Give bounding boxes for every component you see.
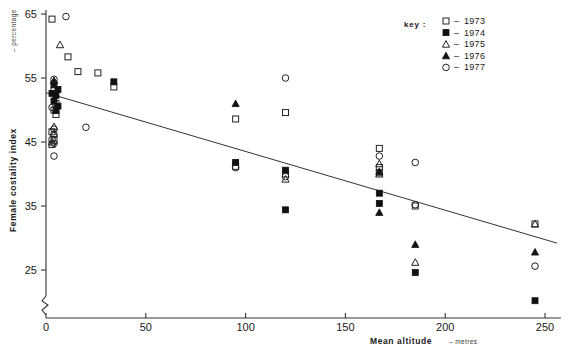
data-point <box>532 298 538 304</box>
scatter-chart: 2535455565050100150200250 Female costali… <box>0 0 577 358</box>
data-point <box>376 153 383 160</box>
legend-item-label: 1976 <box>464 51 485 61</box>
x-axis-unit: – metres <box>449 338 478 345</box>
axis-labels-layer: Female costality index– percentageMean a… <box>8 9 478 346</box>
legend-item-label: 1975 <box>464 39 485 49</box>
data-point <box>412 270 418 276</box>
trendline-layer <box>46 93 557 243</box>
data-point <box>412 259 419 266</box>
x-tick-label: 50 <box>140 321 152 333</box>
chart-canvas: 2535455565050100150200250 Female costali… <box>0 0 577 358</box>
data-point <box>56 41 63 48</box>
data-point <box>111 79 117 85</box>
data-point <box>283 110 289 116</box>
data-point <box>376 190 382 196</box>
legend-item-label: 1973 <box>464 16 485 26</box>
x-axis-title: Mean altitude <box>370 336 432 346</box>
data-point <box>532 263 539 270</box>
legend-dash: – <box>454 39 459 49</box>
data-point <box>95 70 101 76</box>
legend-dash: – <box>454 28 459 38</box>
data-point <box>233 116 239 122</box>
legend-item-1976: –1976 <box>442 51 485 61</box>
x-tick-label: 200 <box>436 321 454 333</box>
legend-item-1977: –1977 <box>443 62 486 72</box>
y-tick-label: 55 <box>25 72 37 84</box>
data-point <box>53 92 59 98</box>
data-point <box>531 248 538 255</box>
y-tick-label: 25 <box>25 264 37 276</box>
legend-marker-filled-square <box>443 30 449 36</box>
y-tick-label: 65 <box>25 8 37 20</box>
data-point <box>65 54 71 60</box>
x-tick-label: 150 <box>336 321 354 333</box>
legend-item-1975: –1975 <box>442 39 485 49</box>
legend-dash: – <box>454 16 459 26</box>
x-tick-label: 250 <box>536 321 554 333</box>
y-tick-label: 45 <box>25 136 37 148</box>
series-1975 <box>48 41 538 265</box>
legend-marker-open-square <box>443 18 449 24</box>
data-point <box>63 13 70 20</box>
legend-dash: – <box>454 51 459 61</box>
legend-item-1974: –1974 <box>443 28 485 38</box>
legend-item-label: 1977 <box>464 62 485 72</box>
data-point <box>232 100 239 107</box>
data-point <box>51 153 58 160</box>
data-point <box>83 124 90 131</box>
legend-title: key : <box>404 20 426 29</box>
regression-line <box>46 93 557 243</box>
data-point <box>49 16 55 22</box>
y-axis-title-group: Female costality index– percentage <box>8 9 18 232</box>
data-point <box>55 87 61 93</box>
data-point <box>376 200 382 206</box>
data-point <box>376 160 383 167</box>
x-tick-label: 0 <box>43 321 49 333</box>
data-point <box>412 201 419 208</box>
data-point <box>412 159 419 166</box>
y-axis-unit: – percentage <box>10 9 18 52</box>
data-point <box>376 145 382 151</box>
data-point <box>283 167 289 173</box>
y-axis-title: Female costality index <box>8 128 18 232</box>
legend: key :–1973–1974–1975–1976–1977 <box>404 16 485 72</box>
legend-dash: – <box>454 62 459 72</box>
legend-item-1973: –1973 <box>443 16 485 26</box>
data-point <box>412 241 419 248</box>
y-tick-label: 35 <box>25 200 37 212</box>
legend-marker-open-circle <box>443 64 450 71</box>
x-tick-label: 100 <box>236 321 254 333</box>
y-axis-break-symbol <box>42 296 48 315</box>
data-point <box>75 69 81 75</box>
data-point <box>376 209 383 216</box>
legend-marker-filled-triangle <box>442 52 449 59</box>
series-1974 <box>49 79 538 304</box>
data-point <box>282 75 289 82</box>
data-point <box>283 207 289 213</box>
legend-marker-open-triangle <box>442 41 449 48</box>
legend-item-label: 1974 <box>464 28 485 38</box>
